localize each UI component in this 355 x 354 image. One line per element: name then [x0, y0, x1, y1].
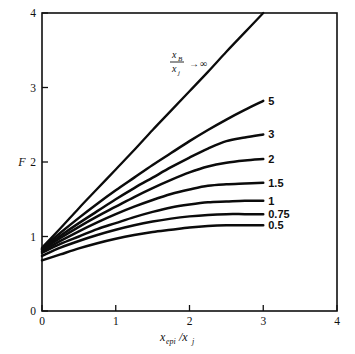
- annotation-numerator-base: x: [171, 49, 177, 60]
- curve-label-2: 2: [268, 153, 274, 165]
- x-tick-label-1: 1: [113, 315, 119, 327]
- y-tick-label-2: 2: [30, 156, 36, 168]
- x-axis-title-sub-epi: epi: [166, 337, 176, 346]
- y-tick-label-4: 4: [30, 7, 36, 19]
- annotation-denominator-base: x: [171, 63, 177, 74]
- y-tick-label-3: 3: [30, 82, 36, 94]
- x-tick-label-4: 4: [334, 315, 340, 327]
- curve-label-5: 5: [268, 95, 274, 107]
- x-tick-label-0: 0: [39, 315, 45, 327]
- curve-label-1.5: 1.5: [268, 177, 283, 189]
- annotation-arrow-icon: →: [189, 58, 199, 69]
- curve-label-0.5: 0.5: [268, 219, 283, 231]
- y-tick-label-0: 0: [30, 305, 36, 317]
- figure-container: 01234 01234 5321.510.750.5 F x epi /x j …: [0, 0, 355, 354]
- x-tick-label-3: 3: [260, 315, 266, 327]
- y-tick-label-1: 1: [30, 231, 36, 243]
- x-axis-title-base: x: [159, 330, 166, 344]
- y-axis-title: F: [17, 155, 26, 169]
- curve-label-3: 3: [268, 128, 274, 140]
- x-axis-title-slash: /x: [178, 330, 188, 344]
- annotation-infinity-symbol: ∞: [200, 58, 207, 69]
- x-tick-label-2: 2: [187, 315, 193, 327]
- annotation-denominator-sub: j: [177, 69, 180, 77]
- chart-svg: 01234 01234 5321.510.750.5 F x epi /x j …: [0, 0, 355, 354]
- curve-label-1: 1: [268, 195, 274, 207]
